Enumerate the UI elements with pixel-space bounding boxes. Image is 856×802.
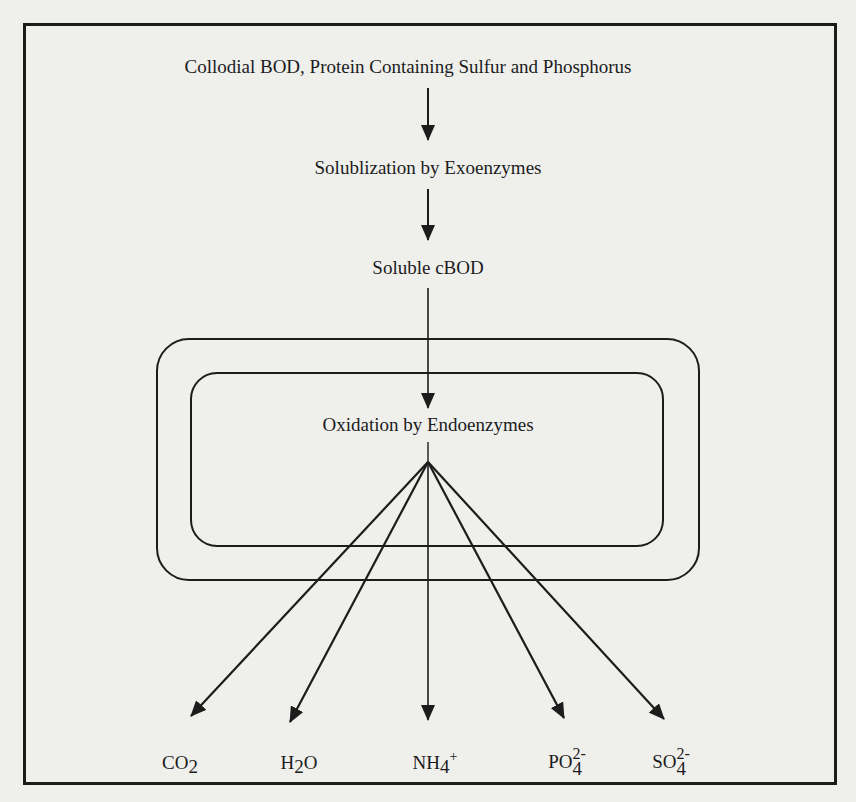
step-soluble-cbod: Soluble cBOD <box>372 258 483 277</box>
product-co2: CO2 <box>162 753 198 772</box>
product-h2o-base: H <box>281 752 295 773</box>
product-po4: PO2-4 <box>548 748 586 780</box>
arrow-to-po4 <box>428 462 564 718</box>
diagram-graphics <box>0 0 856 802</box>
step-solublization: Solublization by Exoenzymes <box>315 158 542 177</box>
step-oxidation: Oxidation by Endoenzymes <box>322 415 533 434</box>
inner-cell-boundary <box>191 373 663 546</box>
product-so4-sub: 4 <box>676 759 689 778</box>
product-po4-base: PO <box>548 751 572 772</box>
product-so4: SO2-4 <box>652 748 690 780</box>
product-nh4-sup: + <box>450 749 458 764</box>
product-co2-sub: 2 <box>188 756 198 777</box>
arrow-to-so4 <box>428 462 664 719</box>
product-co2-base: CO <box>162 752 188 773</box>
product-h2o-tail: O <box>304 752 318 773</box>
product-po4-sub: 4 <box>572 759 585 778</box>
title-colloidal-bod: Collodial BOD, Protein Containing Sulfur… <box>184 57 631 76</box>
arrow-to-co2 <box>191 462 428 716</box>
product-h2o: H2O <box>281 753 318 772</box>
product-nh4-base: NH <box>413 752 440 773</box>
product-nh4-sub: 4 <box>440 756 450 777</box>
arrow-to-h2o <box>290 462 428 722</box>
product-h2o-sub: 2 <box>294 756 304 777</box>
product-so4-base: SO <box>652 751 676 772</box>
product-nh4: NH4+ <box>413 753 458 772</box>
